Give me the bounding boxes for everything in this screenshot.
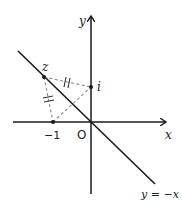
complex-plane-diagram: y x O z i −1 y = −x <box>0 0 182 209</box>
point-z-label: z <box>41 60 49 74</box>
point-i <box>89 85 93 89</box>
line-y-equals-minus-x <box>18 51 155 184</box>
origin-label: O <box>77 128 86 142</box>
x-axis-label: x <box>165 128 172 142</box>
line-equation-label: y = −x <box>140 188 180 201</box>
equal-tick-marks-z-i <box>64 77 70 88</box>
point-minus-one <box>51 120 55 124</box>
y-axis-label: y <box>78 14 86 28</box>
point-i-label: i <box>97 80 101 94</box>
point-z <box>42 75 46 79</box>
point-minus-one-label: −1 <box>44 129 60 142</box>
